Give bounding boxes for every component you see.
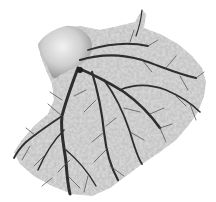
natural-image-scene: [0, 0, 216, 202]
vascular-cast-image: [0, 0, 216, 202]
tissue-texture: [14, 10, 206, 196]
hilum-node: [77, 67, 83, 73]
